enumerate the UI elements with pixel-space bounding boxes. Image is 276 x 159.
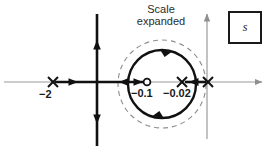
s-plane-letter: s xyxy=(230,13,260,42)
real-axis-locus-left-segment xyxy=(55,78,97,86)
scale-expanded-annotation: Scale expanded xyxy=(129,4,193,28)
s-plane-designation-box: s xyxy=(228,11,262,44)
zero-marker-minus-0-1 xyxy=(144,79,151,86)
vertical-locus-up-arrow xyxy=(93,40,101,50)
left-segment-right-arrow xyxy=(69,78,79,86)
root-locus-circle xyxy=(128,50,196,119)
axis-label-pole-minus-2: −2 xyxy=(39,89,52,101)
axis-label-pole-minus-0-02: −0.02 xyxy=(163,88,191,100)
axis-label-zero-minus-0-1: −0.1 xyxy=(131,88,153,100)
vertical-locus-down-arrow xyxy=(93,115,101,125)
s-plane-root-locus-figure: Scale expanded −2 −0.1 −0.02 s xyxy=(0,0,276,159)
scale-expanded-line-2: expanded xyxy=(129,16,193,28)
vertical-locus-branch xyxy=(93,14,101,146)
mid-segment-right-arrow xyxy=(134,78,144,86)
real-axis-locus-mid-segment xyxy=(97,78,146,86)
scale-expanded-boundary-circle xyxy=(118,40,206,128)
